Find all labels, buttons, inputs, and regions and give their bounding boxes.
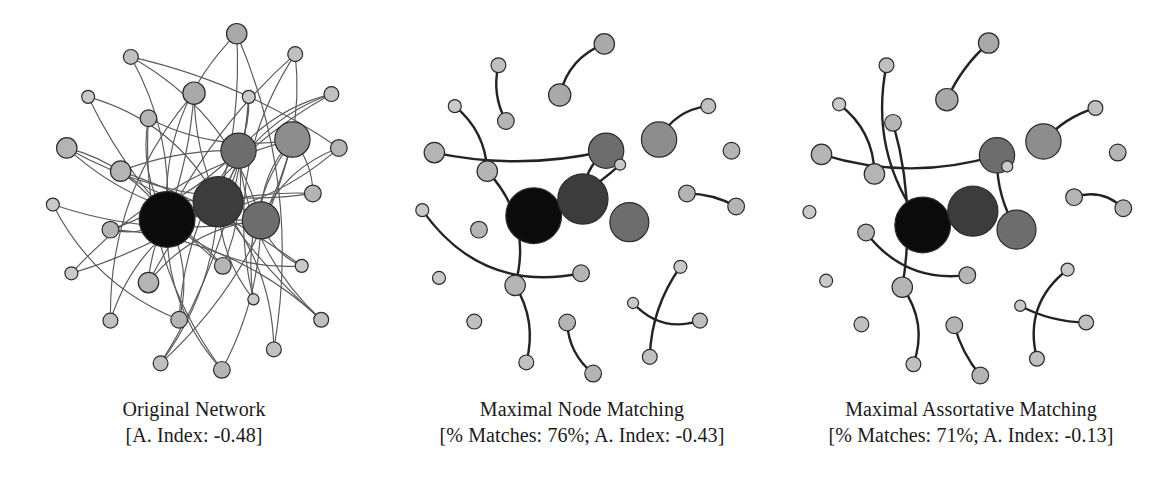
- graph-node: [1109, 144, 1126, 161]
- graph-node: [288, 47, 303, 62]
- graph-node: [171, 311, 188, 328]
- graph-node: [948, 186, 998, 236]
- graph-node: [506, 188, 562, 244]
- graph-node: [1026, 124, 1061, 159]
- panel-original-network: Original Network [A. Index: -0.48]: [0, 0, 388, 477]
- graph-maximal-assortative-matching: [777, 4, 1165, 394]
- graph-node: [331, 140, 348, 157]
- graph-maximal-node-matching: [388, 4, 776, 394]
- graph-node: [57, 138, 77, 158]
- graph-node: [242, 202, 279, 239]
- graph-node: [491, 58, 506, 73]
- graph-node: [1088, 101, 1103, 116]
- node-layer-assortative-matching: [803, 33, 1132, 384]
- graph-node: [424, 142, 444, 162]
- caption-maximal-assortative-matching: Maximal Assortative Matching [% Matches:…: [777, 396, 1165, 448]
- graph-node: [519, 355, 534, 370]
- graph-edge: [515, 285, 530, 362]
- graph-node: [585, 365, 602, 382]
- graph-original-network: [0, 4, 388, 394]
- graph-node: [959, 267, 976, 284]
- graph-edge: [822, 154, 998, 168]
- node-layer-original: [46, 24, 347, 379]
- caption-original-network: Original Network [A. Index: -0.48]: [0, 396, 388, 448]
- caption-title-original: Original Network: [0, 396, 388, 422]
- graph-node: [820, 274, 833, 287]
- graph-node: [153, 356, 168, 371]
- caption-title-node-matching: Maximal Node Matching: [388, 396, 776, 422]
- network-matching-figure: Original Network [A. Index: -0.48] Maxim…: [0, 0, 1165, 477]
- graph-node: [65, 267, 78, 280]
- graph-node: [610, 203, 649, 242]
- graph-edge: [633, 303, 700, 324]
- graph-node: [641, 122, 676, 157]
- graph-node: [701, 99, 716, 114]
- graph-node: [559, 314, 576, 331]
- graph-node: [885, 115, 902, 132]
- graph-node: [242, 90, 255, 103]
- caption-metrics-assortative: [% Matches: 71%; A. Index: -0.13]: [777, 422, 1165, 448]
- graph-node: [674, 260, 687, 273]
- graph-node: [314, 312, 329, 327]
- graph-node: [594, 34, 614, 54]
- caption-metrics-node-matching: [% Matches: 76%; A. Index: -0.43]: [388, 422, 776, 448]
- graph-node: [558, 174, 608, 224]
- graph-node: [467, 314, 482, 329]
- graph-node: [1061, 263, 1074, 276]
- graph-node: [275, 122, 310, 157]
- graph-edge: [434, 151, 606, 162]
- graph-node: [728, 198, 745, 215]
- graph-node: [227, 24, 247, 44]
- graph-node: [248, 294, 259, 305]
- graph-node: [1002, 161, 1013, 172]
- graph-edge: [455, 106, 488, 171]
- graph-node: [854, 317, 869, 332]
- graph-node: [46, 198, 59, 211]
- graph-node: [997, 210, 1036, 249]
- caption-maximal-node-matching: Maximal Node Matching [% Matches: 76%; A…: [388, 396, 776, 448]
- graph-edge: [1020, 306, 1086, 323]
- graph-node: [1015, 300, 1026, 311]
- graph-node: [498, 113, 515, 130]
- caption-title-assortative: Maximal Assortative Matching: [777, 396, 1165, 422]
- graph-node: [214, 362, 231, 379]
- graph-node: [978, 33, 998, 53]
- graph-node: [433, 271, 446, 284]
- graph-edge: [902, 287, 918, 364]
- graph-node: [110, 161, 130, 181]
- node-layer-node-matching: [416, 34, 745, 382]
- panel-maximal-assortative-matching: Maximal Assortative Matching [% Matches:…: [777, 0, 1165, 477]
- graph-node: [123, 50, 138, 65]
- graph-edge: [650, 267, 681, 357]
- graph-node: [936, 89, 958, 111]
- caption-metrics-original: [A. Index: -0.48]: [0, 422, 388, 448]
- graph-node: [102, 221, 119, 238]
- graph-node: [946, 317, 963, 334]
- graph-node: [1115, 200, 1132, 217]
- graph-node: [221, 133, 256, 168]
- graph-node: [214, 258, 231, 275]
- graph-node: [1030, 351, 1045, 366]
- graph-node: [723, 142, 740, 159]
- graph-node: [416, 204, 429, 217]
- graph-node: [573, 265, 590, 282]
- graph-node: [505, 275, 525, 295]
- panel-maximal-node-matching: Maximal Node Matching [% Matches: 76%; A…: [388, 0, 776, 477]
- graph-node: [892, 277, 912, 297]
- graph-node: [477, 161, 497, 181]
- graph-node: [1066, 189, 1083, 206]
- graph-node: [642, 349, 657, 364]
- graph-node: [266, 342, 281, 357]
- graph-node: [183, 82, 205, 104]
- graph-node: [879, 58, 894, 73]
- graph-node: [448, 100, 461, 113]
- graph-node: [305, 185, 322, 202]
- graph-node: [803, 206, 816, 219]
- graph-node: [858, 224, 875, 241]
- graph-node: [295, 259, 308, 272]
- graph-node: [549, 84, 571, 106]
- graph-node: [1079, 315, 1094, 330]
- graph-node: [628, 297, 639, 308]
- graph-node: [324, 87, 339, 102]
- graph-node: [82, 90, 95, 103]
